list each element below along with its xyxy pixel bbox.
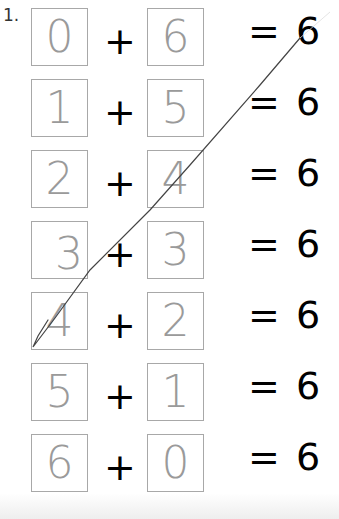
page-shadow (0, 493, 339, 519)
pencil-diagonal-line (0, 0, 339, 519)
